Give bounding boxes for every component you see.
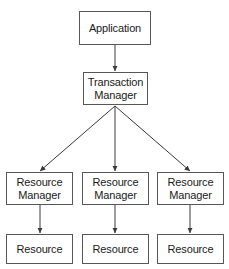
node-label-line1: Resource — [93, 243, 139, 256]
node-label-line1: Resource — [168, 176, 214, 189]
node-label-line1: Application — [89, 22, 141, 35]
node-resource-manager-2[interactable]: ResourceManager — [82, 172, 149, 205]
node-label-line1: Resource — [17, 243, 63, 256]
node-label-line2: Manager — [169, 189, 211, 202]
node-resource-1[interactable]: Resource — [6, 234, 73, 264]
node-label-line1: Resource — [168, 243, 214, 256]
node-label-line1: Resource — [93, 176, 139, 189]
edge-transaction-manager-to-resource-manager-3 — [115, 106, 190, 171]
edge-transaction-manager-to-resource-manager-1 — [40, 106, 115, 171]
node-label-line1: Transaction — [88, 76, 143, 89]
diagram-canvas: ApplicationTransactionManagerResourceMan… — [0, 0, 229, 269]
node-resource-3[interactable]: Resource — [157, 234, 224, 264]
node-application[interactable]: Application — [79, 11, 151, 45]
node-label-line2: Manager — [18, 189, 60, 202]
node-label-line2: Manager — [94, 89, 136, 102]
node-label-line2: Manager — [94, 189, 136, 202]
node-resource-manager-3[interactable]: ResourceManager — [157, 172, 224, 205]
node-resource-manager-1[interactable]: ResourceManager — [6, 172, 73, 205]
node-resource-2[interactable]: Resource — [82, 234, 149, 264]
node-label-line1: Resource — [17, 176, 63, 189]
node-transaction-manager[interactable]: TransactionManager — [83, 72, 148, 105]
